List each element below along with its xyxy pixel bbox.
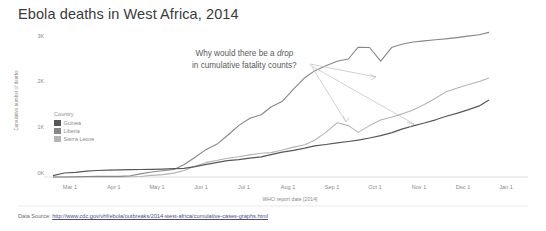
- arrow-to-early-drop: [312, 67, 346, 122]
- line-sierra-leone: [53, 78, 489, 177]
- data-source-label: Data Source:: [18, 213, 52, 219]
- data-source: Data Source: http://www.cdc.gov/vhf/ebol…: [18, 213, 268, 219]
- plot-area: [0, 0, 546, 231]
- annotation-arrows: [310, 64, 414, 128]
- arrow-head-1: [370, 75, 376, 81]
- arrow-to-sierra-drop: [310, 65, 414, 124]
- data-source-link[interactable]: http://www.cdc.gov/vhf/ebola/outbreaks/2…: [52, 213, 268, 219]
- line-guinea: [53, 100, 489, 176]
- series-lines: [53, 32, 489, 177]
- chart-container: Ebola deaths in West Africa, 2014 Cumula…: [0, 0, 546, 231]
